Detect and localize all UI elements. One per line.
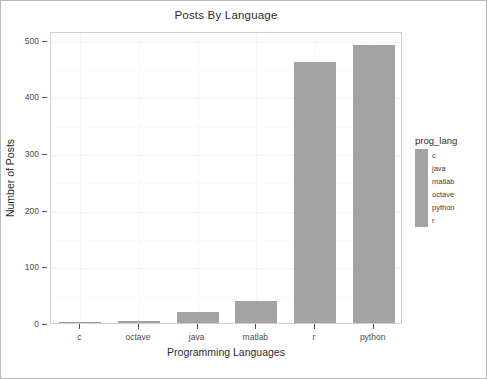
x-axis: coctavejavamatlabrpython xyxy=(50,324,402,348)
y-tick-label: 100 xyxy=(25,262,39,272)
y-tick-label: 400 xyxy=(25,92,39,102)
x-tick-mark xyxy=(79,324,80,329)
y-tick-mark xyxy=(42,211,47,212)
bar-c[interactable] xyxy=(59,322,101,323)
bar-r[interactable] xyxy=(294,62,336,323)
legend-title: prog_lang xyxy=(415,135,485,146)
x-tick-label-r: r xyxy=(313,332,316,342)
legend-swatch-r xyxy=(415,214,428,227)
bar-python[interactable] xyxy=(353,45,395,323)
chart-figure: Posts By Language Number of Posts 010020… xyxy=(0,0,487,379)
y-tick-label: 500 xyxy=(25,36,39,46)
x-tick-label-matlab: matlab xyxy=(243,332,269,342)
y-axis: 0100200300400500 xyxy=(1,32,50,324)
bar-java[interactable] xyxy=(177,312,219,323)
legend-swatch-octave xyxy=(415,188,428,201)
legend-label: java xyxy=(432,164,446,173)
plot-panel xyxy=(50,32,402,324)
legend-item-octave[interactable]: octave xyxy=(415,188,485,201)
y-tick-mark xyxy=(42,97,47,98)
legend-swatch-python xyxy=(415,201,428,214)
chart-legend: prog_lang cjavamatlaboctavepythonr xyxy=(415,135,485,227)
bar-matlab[interactable] xyxy=(235,301,277,323)
x-tick-mark xyxy=(373,324,374,329)
legend-swatch-java xyxy=(415,162,428,175)
legend-item-matlab[interactable]: matlab xyxy=(415,175,485,188)
chart-title: Posts By Language xyxy=(50,9,402,21)
legend-label: r xyxy=(432,216,435,225)
x-tick-mark xyxy=(197,324,198,329)
legend-item-c[interactable]: c xyxy=(415,149,485,162)
legend-items: cjavamatlaboctavepythonr xyxy=(415,149,485,227)
legend-label: octave xyxy=(432,190,454,199)
bars-layer xyxy=(51,33,401,323)
legend-label: matlab xyxy=(432,177,455,186)
x-tick-label-c: c xyxy=(77,332,81,342)
y-tick-label: 200 xyxy=(25,206,39,216)
bar-octave[interactable] xyxy=(118,321,160,323)
y-tick-label: 0 xyxy=(34,319,39,329)
legend-label: c xyxy=(432,151,436,160)
y-tick-mark xyxy=(42,324,47,325)
x-tick-label-python: python xyxy=(360,332,386,342)
legend-swatch-matlab xyxy=(415,175,428,188)
legend-swatch-c xyxy=(415,149,428,162)
y-tick-mark xyxy=(42,267,47,268)
x-axis-title: Programming Languages xyxy=(50,346,402,358)
y-tick-mark xyxy=(42,41,47,42)
legend-label: python xyxy=(432,203,455,212)
x-tick-mark xyxy=(138,324,139,329)
legend-item-java[interactable]: java xyxy=(415,162,485,175)
x-tick-mark xyxy=(255,324,256,329)
y-tick-label: 300 xyxy=(25,149,39,159)
x-tick-mark xyxy=(314,324,315,329)
legend-item-python[interactable]: python xyxy=(415,201,485,214)
y-tick-mark xyxy=(42,154,47,155)
x-tick-label-java: java xyxy=(189,332,205,342)
legend-item-r[interactable]: r xyxy=(415,214,485,227)
x-tick-label-octave: octave xyxy=(125,332,150,342)
